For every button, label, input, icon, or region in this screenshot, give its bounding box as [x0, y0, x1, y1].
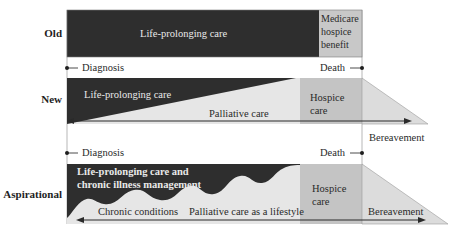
diagnosis-label: Diagnosis — [82, 147, 124, 159]
aspirational-hospice-label-1: Hospice — [312, 183, 346, 195]
old-hospice-label-2: hospice — [321, 26, 352, 38]
old-hospice-label-3: benefit — [321, 39, 349, 51]
new-palliative-label: Palliative care — [209, 108, 269, 120]
new-bereavement-triangle — [362, 78, 428, 124]
aspirational-life-prolonging-label-2: chronic illness management — [77, 179, 201, 191]
aspirational-bereavement-label: Bereavement — [368, 206, 423, 218]
row-label-aspirational: Aspirational — [0, 188, 62, 200]
old-hospice-label-1: Medicare — [321, 13, 359, 25]
aspirational-palliative-label: Palliative care as a lifestyle — [189, 206, 304, 218]
new-life-prolonging-label: Life-prolonging care — [84, 89, 171, 101]
death-label: Death — [320, 147, 345, 159]
row-label-new: New — [20, 93, 62, 105]
aspirational-chronic-label: Chronic conditions — [98, 206, 178, 218]
new-bereavement-label: Bereavement — [369, 132, 424, 144]
row-label-old: Old — [20, 27, 62, 39]
aspirational-hospice-label-2: care — [312, 196, 329, 208]
death-label: Death — [320, 62, 345, 74]
old-life-prolonging-label: Life-prolonging care — [140, 28, 227, 40]
aspirational-life-prolonging-label-1: Life-prolonging care and — [77, 166, 189, 178]
new-hospice-label-1: Hospice — [310, 92, 344, 104]
diagnosis-label: Diagnosis — [82, 62, 124, 74]
new-hospice-label-2: care — [310, 105, 327, 117]
